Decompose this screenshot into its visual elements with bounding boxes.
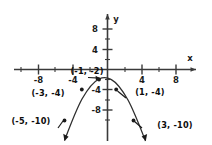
data-point--5--10: [63, 119, 67, 123]
x-axis-label: x: [187, 53, 193, 63]
y-tick-label--4: -4: [92, 85, 102, 95]
left-end-leader-line: [58, 121, 63, 128]
label-right-end: (3, -10): [157, 120, 193, 130]
data-point--3--4: [80, 88, 84, 92]
y-tick-label-8: 8: [92, 24, 98, 34]
x-tick-label--8: -8: [34, 75, 44, 85]
x-axis-arrowhead: [191, 67, 197, 72]
curve-right-arrowhead: [142, 134, 148, 141]
graph-canvas: x y -8 -4 4 8 8 4 -4 -8: [0, 0, 212, 145]
y-axis-label: y: [113, 14, 119, 24]
label-right-mid: (1, -4): [135, 87, 165, 97]
y-axis-arrowhead: [105, 14, 110, 20]
x-tick-label-8: 8: [173, 75, 179, 85]
y-tick-label-4: 4: [92, 45, 98, 55]
label-left-mid: (-3, -4): [31, 88, 64, 98]
label-left-end: (-5, -10): [11, 116, 50, 126]
curve-left-arrowhead: [63, 134, 68, 141]
y-tick-label--8: -8: [92, 105, 102, 115]
parabola-plot: x y -8 -4 4 8 8 4 -4 -8: [0, 0, 212, 145]
x-tick-label--4: -4: [68, 75, 78, 85]
x-tick-label-4: 4: [139, 75, 145, 85]
label-vertex: (-1, -2): [70, 66, 103, 76]
data-point-1--4: [114, 88, 118, 92]
